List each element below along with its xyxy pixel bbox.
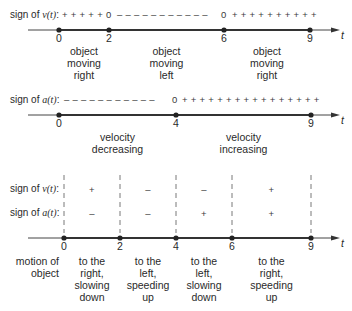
velocity-sign-plus-2: + + + + + + + + + +	[232, 9, 317, 20]
acceleration-tick-label: 0	[56, 117, 62, 129]
acceleration-sign-cell: –	[89, 208, 95, 219]
acceleration-sign-cell: +	[269, 208, 275, 219]
velocity-axis-variable: t	[341, 29, 345, 41]
table-acceleration-label: sign of a(t):	[10, 207, 59, 219]
motion-description: to the	[258, 255, 284, 267]
acceleration-axis-variable: t	[341, 114, 345, 126]
table-velocity-label: sign of v(t):	[10, 183, 59, 195]
acceleration-sign-cell: +	[201, 208, 207, 219]
motion-description: down	[191, 291, 216, 303]
velocity-tick-label: 2	[106, 32, 112, 44]
velocity-axis-arrow-icon	[331, 28, 340, 33]
velocity-interval-caption: left	[159, 69, 173, 81]
acceleration-interval-caption: velocity	[226, 131, 262, 143]
velocity-interval-caption: right	[257, 69, 278, 81]
motion-description: up	[266, 291, 278, 303]
motion-label-line-1: motion of	[16, 255, 59, 267]
acceleration-tick-label: 4	[173, 117, 179, 129]
combined-tick-label: 6	[229, 240, 235, 252]
combined-axis-variable: t	[341, 237, 345, 249]
motion-sign-diagram: sign of v(t): + + + + + 0 – – – – – – – …	[0, 0, 352, 311]
velocity-sign-plus-1: + + + + +	[62, 9, 103, 20]
motion-description: up	[142, 291, 154, 303]
combined-tick-label: 4	[173, 240, 179, 252]
velocity-sign-label: sign of v(t):	[10, 9, 59, 21]
acceleration-sign-minus: – – – – – – – – – – –	[64, 94, 155, 105]
acceleration-sign-cell: –	[145, 208, 151, 219]
velocity-sign-cell: –	[145, 184, 151, 195]
velocity-sign-zero-1: 0	[106, 9, 112, 20]
acceleration-interval-caption: decreasing	[92, 143, 144, 155]
velocity-sign-zero-2: 0	[221, 9, 227, 20]
acceleration-interval-caption: velocity	[100, 131, 136, 143]
velocity-interval-caption: moving	[150, 57, 184, 69]
acceleration-axis-arrow-icon	[331, 113, 340, 118]
motion-description: right,	[80, 267, 103, 279]
combined-table-cells: +–to theright,slowingdown––to theleft,sp…	[64, 175, 311, 303]
velocity-tick-label: 6	[221, 32, 227, 44]
velocity-tick-label: 0	[56, 32, 62, 44]
acceleration-sign-label: sign of a(t):	[10, 94, 59, 106]
motion-description: down	[79, 291, 104, 303]
motion-description: speeding	[127, 279, 170, 291]
combined-axis-arrow-icon	[331, 236, 340, 241]
acceleration-interval-caption: increasing	[220, 143, 268, 155]
motion-description: to the	[79, 255, 105, 267]
motion-description: to the	[135, 255, 161, 267]
motion-description: left,	[196, 267, 213, 279]
velocity-tick-label: 9	[307, 32, 313, 44]
combined-tick-label: 9	[308, 240, 314, 252]
acceleration-sign-zero: 0	[172, 94, 178, 105]
velocity-interval-caption: object	[70, 45, 98, 57]
motion-description: right,	[260, 267, 283, 279]
velocity-sign-cell: +	[89, 184, 95, 195]
velocity-sign-row: sign of v(t): + + + + + 0 – – – – – – – …	[10, 9, 317, 21]
acceleration-sign-row: sign of a(t): – – – – – – – – – – – 0 + …	[10, 94, 320, 106]
velocity-interval-caption: moving	[250, 57, 284, 69]
motion-description: slowing	[186, 279, 221, 291]
velocity-interval-caption: moving	[67, 57, 101, 69]
velocity-interval-caption: right	[74, 69, 95, 81]
acceleration-tick-label: 9	[308, 117, 314, 129]
acceleration-axis: t049velocitydecreasingvelocityincreasing	[28, 112, 345, 155]
motion-description: slowing	[74, 279, 109, 291]
motion-description: speeding	[250, 279, 293, 291]
motion-description: left,	[140, 267, 157, 279]
velocity-sign-cell: +	[269, 184, 275, 195]
acceleration-sign-plus: + + + + + + + + + + + + + + + +	[182, 94, 320, 105]
motion-description: to the	[191, 255, 217, 267]
velocity-axis: t0269objectmovingrightobjectmovingleftob…	[28, 27, 345, 81]
velocity-sign-minus: – – – – – – – – – – –	[117, 9, 208, 20]
combined-table: sign of v(t): sign of a(t): motion of ob…	[10, 183, 59, 279]
combined-axis: t02469	[28, 235, 345, 252]
velocity-sign-cell: –	[201, 184, 207, 195]
velocity-interval-caption: object	[253, 45, 281, 57]
motion-label-line-2: object	[31, 267, 59, 279]
velocity-interval-caption: object	[152, 45, 180, 57]
combined-tick-label: 0	[61, 240, 67, 252]
combined-tick-label: 2	[117, 240, 123, 252]
